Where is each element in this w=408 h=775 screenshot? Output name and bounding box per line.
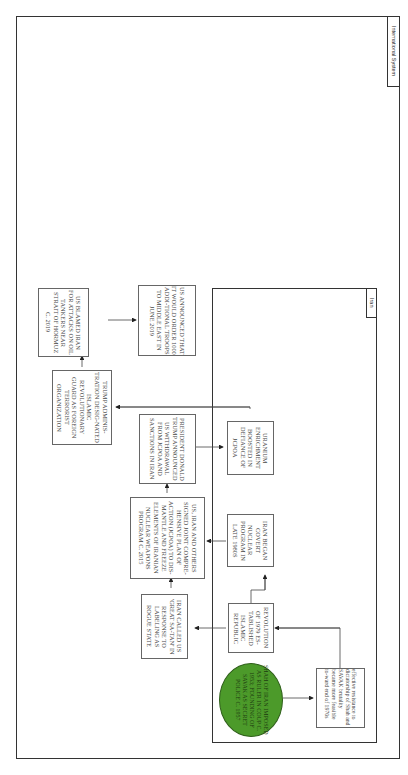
node-covert-nuclear: IRAN BEGAN COVERT NUCLEAR PROGRAM IN LAT… bbox=[227, 514, 274, 567]
node-great-satan: IRAN CALLED US 'GREAT SA-TAN' IN RESPONS… bbox=[141, 594, 188, 659]
node-uranium: URANIUM ENRICHMENT BOOSTED IN DEFIANCE O… bbox=[227, 421, 274, 475]
node-jcpoa: US, IRAN AND OTHERS SIGNED JOINT COMPRE-… bbox=[130, 497, 205, 579]
node-resistance: effective resistance to dictatorship of … bbox=[316, 668, 365, 728]
node-us-troops: US ANNOUNCED THAT IT WOULD ORDER 1000 AD… bbox=[138, 285, 196, 356]
node-shah-root: SHAH OF IRAN IMPOSED AS RULER IN COUP C.… bbox=[219, 663, 283, 737]
node-trump-withdrawal: PRESIDENT DONALD TRUMP ANNOUNCED US WITH… bbox=[139, 414, 196, 484]
node-revolution: REVOLUTION OF 1979 ES-TABLISHED ISLAMIC … bbox=[228, 603, 274, 653]
node-us-blamed-iran: US BLAMED IRAN FOR ATTACKS ON OIL TANKER… bbox=[38, 288, 89, 357]
node-trump-irgc: TRUMP ADMINIS-TRATION DESIG-NATED ISLAMI… bbox=[52, 370, 112, 445]
